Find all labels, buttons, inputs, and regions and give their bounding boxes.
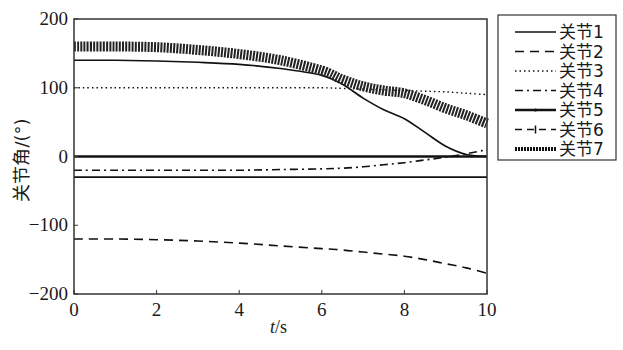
series-line-2 <box>74 239 487 273</box>
y-axis-title: 关节角/(°) <box>11 118 32 201</box>
legend-label: 关节2 <box>559 42 604 62</box>
series-line-3 <box>74 88 487 95</box>
y-tick-label: 100 <box>40 77 69 98</box>
x-tick-label: 0 <box>69 299 79 320</box>
y-tick-label: 200 <box>40 8 69 29</box>
legend: 关节1关节2关节3关节4关节5关节6关节7 <box>498 15 616 160</box>
x-tick-label: 6 <box>317 299 327 320</box>
x-tick-label: 2 <box>152 299 162 320</box>
y-axis: −200−1000100200 <box>29 8 78 304</box>
x-tick-label: 8 <box>400 299 410 320</box>
y-tick-label: 0 <box>59 146 69 167</box>
series-line-7 <box>74 46 487 123</box>
plot-lines <box>74 46 487 273</box>
legend-label: 关节6 <box>559 120 604 140</box>
legend-label: 关节4 <box>559 81 604 101</box>
x-axis-title: t/s <box>270 317 287 337</box>
x-tick-label: 10 <box>478 299 497 320</box>
y-tick-label: −200 <box>29 283 68 304</box>
legend-label: 关节3 <box>559 61 604 81</box>
x-tick-label: 4 <box>234 299 244 320</box>
legend-label: 关节5 <box>559 100 604 120</box>
legend-label: 关节7 <box>559 139 604 159</box>
joint-angle-chart: 0246810 −200−1000100200 t/s 关节角/(°) 关节1关… <box>0 0 623 350</box>
y-tick-label: −100 <box>29 214 68 235</box>
series-line-4 <box>74 150 487 171</box>
legend-label: 关节1 <box>559 22 604 42</box>
series-line-1 <box>74 60 487 156</box>
